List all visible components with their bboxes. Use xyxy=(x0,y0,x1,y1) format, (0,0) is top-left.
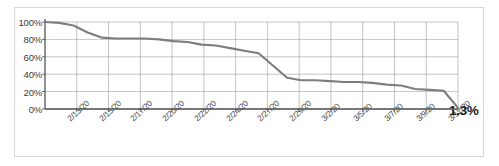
horizontal-gridlines xyxy=(45,22,458,109)
chart-axes xyxy=(42,19,458,109)
vertical-gridlines xyxy=(77,22,458,109)
data-series-line xyxy=(45,22,458,108)
chart-plot-area xyxy=(0,0,499,166)
